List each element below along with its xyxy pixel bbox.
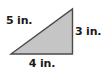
hypotenuse-length-label: 5 in. [6,15,32,26]
vertical-leg-length-label: 3 in. [75,26,101,37]
base-leg-length-label: 4 in. [0,58,84,69]
triangle-figure: 5 in. 3 in. 4 in. [0,0,108,73]
